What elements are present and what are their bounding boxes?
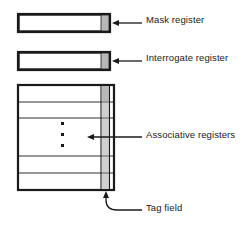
interrogate-register [18,52,110,70]
ellipsis-dot [61,144,64,147]
tag-cell [102,157,109,172]
interrogate-register-label: Interrogate register [146,53,228,63]
mask-arrow [112,20,142,26]
mask-arrow-head [112,20,119,26]
tag-cell [102,86,109,101]
interrogate-arrow-head [112,58,119,64]
tag-cell [102,103,109,117]
interrogate-arrow [112,58,142,64]
interrogate-tag-cell [101,53,109,69]
tag-field-arrow [103,191,142,210]
tag-field-arrow-line [106,198,142,210]
tag-field-label: Tag field [146,203,182,213]
mask-register-body [18,14,110,32]
diagram-canvas [0,0,252,237]
associative-memory-diagram: Mask register Interrogate register Assoc… [0,0,252,237]
associative-registers-label: Associative registers [146,130,235,140]
mask-tag-cell [101,15,109,31]
mask-register [18,14,110,32]
tag-field-arrow-head [103,191,109,198]
tag-cell [102,174,109,189]
mask-register-label: Mask register [146,15,204,25]
ellipsis-dot [61,122,64,125]
interrogate-register-body [18,52,110,70]
ellipsis-dot [61,133,64,136]
